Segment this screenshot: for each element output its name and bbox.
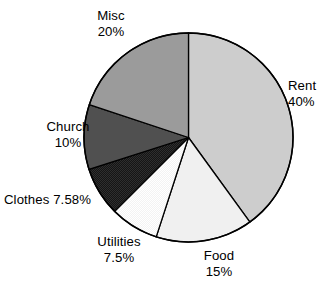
slice-label-utilities-name: Utilities xyxy=(78,234,160,250)
slice-label-food-value: 15% xyxy=(186,264,252,280)
pie-chart: Misc 20% Rent 40% Food 15% Utilities 7.5… xyxy=(0,0,330,289)
slice-label-rent: Rent 40% xyxy=(288,78,330,109)
slice-label-church-name: Church xyxy=(32,119,104,135)
slice-label-clothes-value: 7.58% xyxy=(53,192,91,207)
slice-label-misc-name: Misc xyxy=(74,8,148,24)
slice-label-utilities: Utilities 7.5% xyxy=(78,234,160,265)
slice-label-misc-value: 20% xyxy=(74,24,148,40)
slice-label-rent-name: Rent xyxy=(288,78,330,94)
slice-label-food-name: Food xyxy=(186,248,252,264)
slice-label-clothes: Clothes 7.58% xyxy=(4,192,112,208)
slice-label-utilities-value: 7.5% xyxy=(78,250,160,266)
slice-label-clothes-name: Clothes xyxy=(4,192,53,207)
slice-label-church: Church 10% xyxy=(32,119,104,150)
slice-label-food: Food 15% xyxy=(186,248,252,279)
pie-slices xyxy=(84,33,293,242)
slice-label-church-value: 10% xyxy=(32,135,104,151)
slice-label-misc: Misc 20% xyxy=(74,8,148,39)
slice-label-rent-value: 40% xyxy=(288,94,330,110)
